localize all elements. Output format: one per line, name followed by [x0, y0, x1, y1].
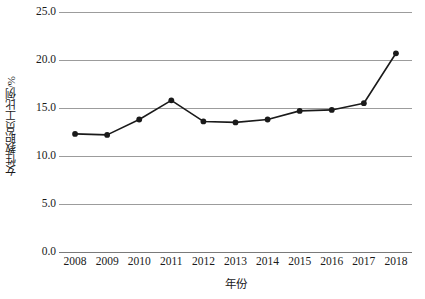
- data-point-marker: [136, 117, 142, 123]
- y-axis-tick-labels: 0.05.010.015.020.025.0: [16, 0, 56, 299]
- data-point-marker: [265, 117, 271, 123]
- y-tick-label: 20.0: [20, 54, 56, 66]
- y-tick-label: 15.0: [20, 102, 56, 114]
- data-point-marker: [361, 100, 367, 106]
- x-tick-label: 2010: [128, 256, 151, 268]
- x-tick-label: 2018: [384, 256, 407, 268]
- data-point-marker: [104, 132, 110, 138]
- data-point-marker: [201, 119, 207, 125]
- data-point-marker: [168, 97, 174, 103]
- x-tick-label: 2017: [352, 256, 375, 268]
- x-tick-label: 2008: [64, 256, 87, 268]
- data-point-marker: [329, 107, 335, 113]
- x-tick-label: 2009: [96, 256, 119, 268]
- series-line-female-staff-ratio: [59, 12, 412, 252]
- x-tick-label: 2013: [224, 256, 247, 268]
- x-axis-title: 年份: [59, 275, 412, 291]
- line-chart: 女性教职员工比例/% 0.05.010.015.020.025.0 200820…: [0, 0, 425, 299]
- y-tick-label: 5.0: [20, 198, 56, 210]
- plot-area: [59, 12, 412, 252]
- data-point-marker: [233, 120, 239, 126]
- y-tick-label: 25.0: [20, 6, 56, 18]
- data-point-marker: [393, 50, 399, 56]
- x-axis-title-text: 年份: [225, 278, 247, 290]
- data-point-marker: [72, 131, 78, 137]
- x-tick-label: 2014: [256, 256, 279, 268]
- x-tick-label: 2016: [320, 256, 343, 268]
- x-axis-tick-labels: 2008200920102011201220132014201520162017…: [59, 256, 412, 274]
- x-tick-label: 2011: [160, 256, 183, 268]
- x-tick-label: 2012: [192, 256, 215, 268]
- x-tick-label: 2015: [288, 256, 311, 268]
- data-point-marker: [297, 108, 303, 114]
- y-tick-label: 0.0: [20, 246, 56, 258]
- gridline-0.0: [59, 252, 412, 253]
- y-tick-label: 10.0: [20, 150, 56, 162]
